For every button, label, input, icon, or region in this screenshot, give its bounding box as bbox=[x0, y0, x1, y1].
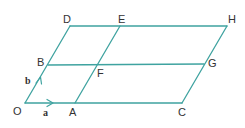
label-b: B bbox=[37, 56, 44, 68]
label-h: H bbox=[228, 13, 236, 25]
label-d: D bbox=[63, 13, 71, 25]
segment-bg bbox=[48, 64, 204, 65]
label-g: G bbox=[208, 57, 217, 69]
label-e: E bbox=[118, 13, 125, 25]
label-c: C bbox=[178, 106, 186, 118]
label-vector-a: a bbox=[43, 107, 48, 118]
label-a: A bbox=[69, 106, 77, 118]
label-f: F bbox=[97, 67, 104, 79]
label-vector-b: b bbox=[25, 75, 31, 86]
label-o: O bbox=[13, 105, 22, 117]
vector-diagram: O A C B F G D E H a b bbox=[0, 0, 245, 128]
